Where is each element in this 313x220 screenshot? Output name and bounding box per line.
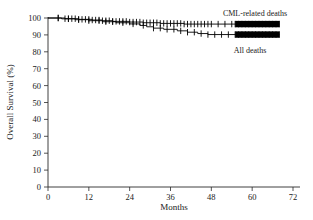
y-axis-title: Overall Survival (%) [5, 64, 15, 139]
x-axis-ticks: 0122436486072 [46, 187, 297, 202]
y-tick-label: 20 [33, 148, 42, 158]
y-tick-label: 0 [37, 182, 41, 192]
survival-chart-figure: 0102030405060708090100 0122436486072 Ove… [0, 0, 313, 220]
x-tick-label: 36 [166, 192, 175, 202]
x-axis-title: Months [160, 202, 188, 212]
y-axis-ticks: 0102030405060708090100 [28, 13, 48, 192]
x-tick-label: 0 [46, 192, 50, 202]
y-tick-label: 90 [33, 30, 42, 40]
y-tick-label: 80 [33, 47, 42, 57]
censor-dense-bar [235, 31, 279, 37]
legend-label-cml-related-deaths: CML-related deaths [223, 9, 287, 18]
y-tick-label: 30 [33, 131, 42, 141]
legend-label-all-deaths: All deaths [234, 46, 267, 55]
x-tick-label: 48 [207, 192, 216, 202]
y-tick-label: 100 [28, 13, 41, 23]
y-tick-label: 70 [33, 64, 42, 74]
kaplan-meier-plot: 0102030405060708090100 0122436486072 Ove… [0, 0, 313, 220]
x-tick-label: 24 [125, 192, 134, 202]
axis-group [48, 17, 300, 187]
x-tick-label: 72 [289, 192, 298, 202]
y-tick-label: 40 [33, 114, 42, 124]
x-tick-label: 60 [248, 192, 257, 202]
y-tick-label: 50 [33, 98, 42, 108]
x-tick-label: 12 [85, 192, 94, 202]
y-tick-label: 60 [33, 81, 42, 91]
censor-dense-bar [235, 21, 279, 27]
y-tick-label: 10 [33, 165, 42, 175]
censor-marks [58, 15, 279, 38]
